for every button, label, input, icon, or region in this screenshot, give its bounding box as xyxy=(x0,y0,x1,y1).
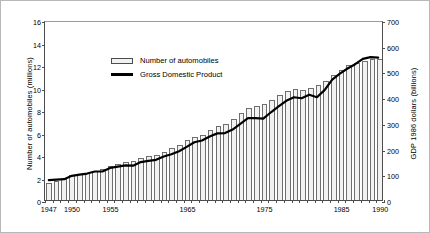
x-tick-mark xyxy=(91,200,92,203)
x-tick-mark xyxy=(322,200,323,203)
y-left-tick-label: 10 xyxy=(33,85,41,94)
x-tick-mark xyxy=(130,200,131,203)
y-right-tick-mark xyxy=(382,99,385,100)
y-right-tick-label: 700 xyxy=(387,18,399,27)
x-tick-mark xyxy=(361,200,362,203)
y-axis-left-title: Number of automobiles (millions) xyxy=(25,34,34,194)
x-tick-mark xyxy=(299,200,300,203)
x-tick-mark xyxy=(176,200,177,203)
chart-figure: Number of automobiles (millions) GDP 198… xyxy=(0,0,430,233)
y-left-tick-label: 12 xyxy=(33,63,41,72)
x-tick-mark xyxy=(45,200,46,203)
y-axis-right-title: GDP 1986 dollars (billions) xyxy=(409,34,418,194)
x-tick-mark xyxy=(191,200,192,203)
x-tick-mark xyxy=(107,200,108,203)
x-tick-mark xyxy=(261,200,262,203)
x-tick-mark xyxy=(376,200,377,203)
y-right-tick-mark xyxy=(382,22,385,23)
x-tick-label: 1975 xyxy=(257,205,273,214)
x-tick-mark xyxy=(60,200,61,203)
x-tick-mark xyxy=(99,200,100,203)
x-tick-mark xyxy=(137,200,138,203)
legend-item-automobiles: Number of automobiles xyxy=(111,55,222,66)
y-left-tick-label: 14 xyxy=(33,40,41,49)
x-tick-mark xyxy=(122,200,123,203)
x-tick-mark xyxy=(307,200,308,203)
x-tick-mark xyxy=(276,200,277,203)
y-right-tick-label: 100 xyxy=(387,172,399,181)
y-right-tick-label: 300 xyxy=(387,120,399,129)
x-tick-mark xyxy=(222,200,223,203)
x-tick-mark xyxy=(199,200,200,203)
chart-legend: Number of automobiles Gross Domestic Pro… xyxy=(111,55,222,83)
x-tick-mark xyxy=(369,200,370,203)
x-tick-label: 1947 xyxy=(41,205,57,214)
x-tick-mark xyxy=(315,200,316,203)
legend-item-gdp: Gross Domestic Product xyxy=(111,69,222,80)
x-tick-mark xyxy=(330,200,331,203)
x-tick-mark xyxy=(184,200,185,203)
x-tick-mark xyxy=(253,200,254,203)
y-right-tick-mark xyxy=(382,73,385,74)
x-tick-mark xyxy=(338,200,339,203)
series-layer xyxy=(45,22,382,200)
x-tick-mark xyxy=(145,200,146,203)
y-right-tick-mark xyxy=(382,48,385,49)
x-tick-label: 1965 xyxy=(180,205,196,214)
y-right-tick-label: 500 xyxy=(387,69,399,78)
x-tick-label: 1985 xyxy=(334,205,350,214)
legend-bar-swatch-icon xyxy=(111,58,133,64)
x-tick-mark xyxy=(292,200,293,203)
x-tick-mark xyxy=(353,200,354,203)
y-right-tick-label: 200 xyxy=(387,146,399,155)
x-tick-mark xyxy=(230,200,231,203)
y-left-tick-label: 4 xyxy=(37,153,41,162)
x-tick-mark xyxy=(161,200,162,203)
x-tick-mark xyxy=(68,200,69,203)
y-right-tick-mark xyxy=(382,176,385,177)
legend-label-gdp: Gross Domestic Product xyxy=(140,70,222,79)
y-right-tick-label: 600 xyxy=(387,43,399,52)
y-left-tick-label: 8 xyxy=(37,108,41,117)
gdp-line-series xyxy=(45,22,382,200)
y-right-tick-label: 400 xyxy=(387,95,399,104)
x-tick-mark xyxy=(76,200,77,203)
x-tick-label: 1990 xyxy=(372,205,388,214)
x-tick-mark xyxy=(384,200,385,203)
x-tick-mark xyxy=(153,200,154,203)
x-tick-mark xyxy=(245,200,246,203)
x-tick-label: 1950 xyxy=(64,205,80,214)
x-tick-mark xyxy=(84,200,85,203)
x-tick-mark xyxy=(207,200,208,203)
x-tick-mark xyxy=(215,200,216,203)
y-left-tick-label: 2 xyxy=(37,175,41,184)
x-tick-label: 1955 xyxy=(102,205,118,214)
y-left-tick-label: 6 xyxy=(37,130,41,139)
plot-area: 0246810121416 0100200300400500600700 194… xyxy=(44,21,383,201)
x-tick-mark xyxy=(168,200,169,203)
x-tick-mark xyxy=(345,200,346,203)
x-tick-mark xyxy=(268,200,269,203)
x-tick-mark xyxy=(284,200,285,203)
legend-label-automobiles: Number of automobiles xyxy=(140,56,219,65)
x-tick-mark xyxy=(114,200,115,203)
y-right-tick-mark xyxy=(382,125,385,126)
x-tick-mark xyxy=(238,200,239,203)
x-tick-mark xyxy=(53,200,54,203)
y-left-tick-label: 16 xyxy=(33,18,41,27)
y-right-tick-mark xyxy=(382,151,385,152)
legend-line-swatch-icon xyxy=(111,73,133,76)
